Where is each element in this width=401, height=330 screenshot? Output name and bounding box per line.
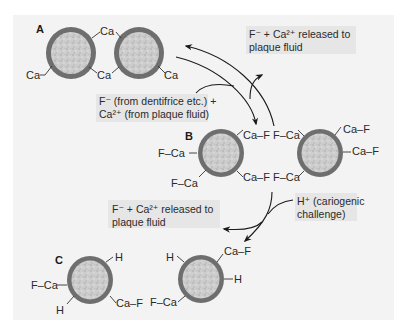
note-fluoride-source-line2: Ca²⁺ (from plaque fluid)	[99, 108, 209, 120]
label-c2-h-right: H	[234, 273, 242, 285]
crystal-b1	[198, 129, 244, 177]
panel-c-letter: C	[55, 254, 63, 266]
note-released-top-line1: F⁻ + Ca²⁺ released to	[249, 28, 350, 40]
label-a-ca-left: Ca	[26, 69, 41, 81]
label-a-ca-top: Ca	[100, 25, 115, 37]
note-cariogenic-line1: H⁺ (cariogenic	[297, 195, 364, 207]
note-cariogenic: H⁺ (cariogenic challenge)	[295, 193, 364, 221]
note-released-top: F⁻ + Ca²⁺ released to plaque fluid	[246, 26, 356, 54]
label-c1-f-ca-left: F–Ca	[31, 279, 59, 291]
label-c1-h-bottom: H	[56, 304, 64, 316]
label-a-ca-right: Ca	[164, 69, 179, 81]
label-c1-ca-f-bottom: Ca–F	[116, 297, 143, 309]
label-c2-ca-f-top: Ca–F	[224, 245, 251, 257]
label-b2-ca-f-right: Ca–F	[352, 145, 379, 157]
label-c1-h-top: H	[115, 251, 123, 263]
label-b1-f-ca-bottom: F–Ca	[171, 177, 199, 189]
panel-a-letter: A	[36, 23, 44, 35]
label-a-ca-middle: Ca	[97, 69, 112, 81]
label-b1-ca-f-top: Ca–F	[243, 129, 270, 141]
panel-b-letter: B	[185, 130, 193, 142]
note-released-bottom: F⁻ + Ca²⁺ released to plaque fluid	[108, 200, 220, 228]
crystal-c2	[178, 255, 224, 303]
label-b1-f-ca-left: F–Ca	[158, 147, 186, 159]
enamel-crystal-fluoride-diagram: A Ca Ca Ca Ca F⁻ (from dentifrice etc.) …	[0, 0, 401, 330]
crystal-b2	[297, 129, 343, 177]
note-fluoride-source-line1: F⁻ (from dentifrice etc.) +	[99, 95, 216, 107]
note-cariogenic-line2: challenge)	[297, 208, 345, 220]
label-c2-h-top: H	[166, 251, 174, 263]
label-b2-f-ca-bottom: F–Ca	[273, 171, 301, 183]
note-released-bottom-line1: F⁻ + Ca²⁺ released to	[112, 203, 213, 215]
note-released-top-line2: plaque fluid	[249, 41, 303, 53]
note-released-bottom-line2: plaque fluid	[112, 216, 166, 228]
crystal-a1	[46, 27, 96, 79]
label-c2-f-ca-bottom: F–Ca	[150, 296, 178, 308]
crystal-a2	[114, 27, 164, 79]
label-b2-f-ca-top: F–Ca	[273, 129, 301, 141]
crystal-c1	[67, 256, 113, 304]
label-b1-ca-f-bottom: Ca–F	[243, 171, 270, 183]
note-fluoride-source: F⁻ (from dentifrice etc.) + Ca²⁺ (from p…	[96, 94, 216, 122]
label-b2-ca-f-top: Ca–F	[343, 123, 370, 135]
